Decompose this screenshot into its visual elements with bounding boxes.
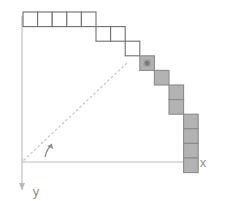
raster-cell-filled: [184, 158, 199, 173]
marker-dot: [145, 61, 150, 66]
figure-canvas: x y: [0, 0, 225, 201]
raster-cell-filled: [184, 129, 199, 144]
raster-cell-open: [23, 12, 38, 27]
axes-group: [19, 16, 192, 190]
raster-cell-open: [38, 12, 53, 27]
y-axis-arrowhead: [19, 183, 25, 190]
raster-cell-filled: [169, 100, 184, 115]
raster-cell-open: [81, 12, 96, 27]
theta-arc: [45, 144, 53, 157]
raster-cell-filled: [154, 70, 169, 85]
x-axis-label: x: [200, 155, 207, 170]
quarter-circle-raster-diagram: x y: [0, 0, 225, 201]
raster-cell-open: [96, 27, 111, 42]
raster-cells-group: [23, 12, 198, 173]
raster-cell-filled: [169, 85, 184, 100]
y-axis-label: y: [33, 184, 40, 199]
current-pixel-dot: [143, 59, 151, 67]
raster-cell-open: [67, 12, 82, 27]
raster-cell-open: [125, 41, 140, 56]
raster-cell-open: [111, 27, 126, 42]
raster-cell-open: [52, 12, 67, 27]
raster-cell-filled: [184, 143, 199, 158]
dashed-radius-line: [24, 62, 128, 160]
raster-cell-filled: [184, 114, 199, 129]
